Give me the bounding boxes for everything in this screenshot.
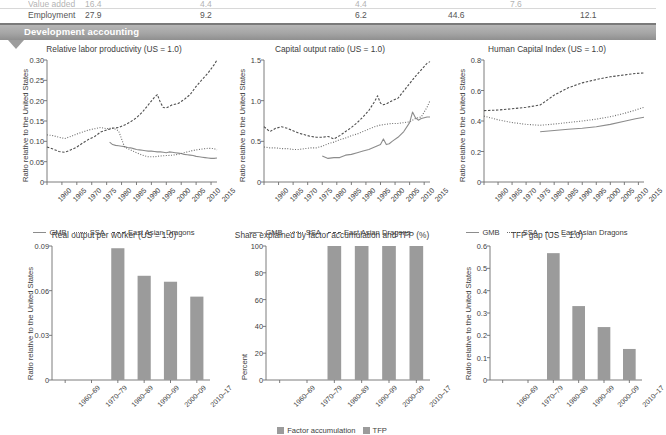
bar	[598, 327, 611, 380]
y-tick-label: 0.15	[30, 117, 44, 126]
table-row: Employment 27.9 9.2 6.2 44.6 12.1	[0, 10, 656, 22]
y-tick-label: 1.5	[251, 56, 261, 65]
x-tick-label: 2010–17	[641, 384, 665, 408]
y-tick-label: 0.4	[477, 286, 487, 295]
plot-svg	[484, 60, 644, 182]
x-tick-label: 1960	[273, 186, 291, 204]
plot-area: 00.030.060.091960–691970–791980–891990–9…	[52, 246, 210, 380]
chart-title: Real output per worker (US = 1.0)	[6, 230, 222, 240]
x-tick-label: 1990	[360, 186, 378, 204]
chart-panel-share-explained-factor-tfp: Share explained by factor accumulation a…	[224, 230, 440, 426]
bar	[382, 246, 396, 380]
chart-panel-tfp-gap: TFP gap (US = 1.0)Ratio relative to the …	[442, 230, 652, 426]
y-tick-label: 0.6	[471, 86, 481, 95]
y-tick-label: 60	[255, 295, 263, 304]
x-tick-label: 1995	[160, 186, 178, 204]
x-tick-label: 1990–99	[591, 384, 615, 408]
y-tick-label: 0.3	[477, 309, 487, 318]
y-tick-label: 0.20	[30, 96, 44, 105]
section-banner: Development accounting	[0, 25, 656, 40]
table-cell-label: Employment	[28, 10, 75, 20]
legend-label: Factor accumulation	[287, 426, 355, 435]
y-tick-label: 0.5	[477, 264, 487, 273]
x-tick-label: 1975	[100, 186, 118, 204]
series-line-gmb	[322, 112, 430, 158]
y-tick-label: 0	[477, 178, 481, 187]
plot-area: 00.20.40.60.8196019651970197519801985199…	[484, 60, 644, 182]
y-tick-label: 1.0	[251, 96, 261, 105]
y-tick-label: 0.09	[35, 242, 49, 251]
x-tick-label: 1980–89	[565, 384, 589, 408]
y-tick-label: 0.03	[35, 331, 49, 340]
chart-title: TFP gap (US = 1.0)	[442, 230, 652, 240]
chart-title: Human Capital Index (US = 1.0)	[442, 44, 652, 54]
plot-svg	[490, 246, 642, 380]
chart-panel-real-output-per-worker: Real output per worker (US = 1.0)Ratio r…	[6, 230, 222, 426]
table-cell-value: 12.1	[580, 10, 597, 20]
y-tick-label: 0.8	[471, 56, 481, 65]
x-tick-label: 2000–09	[401, 384, 425, 408]
x-tick-label: 1980	[331, 186, 349, 204]
x-tick-label: 1980–89	[130, 384, 154, 408]
y-tick-label: 0.4	[471, 117, 481, 126]
y-tick-label: 0.10	[30, 137, 44, 146]
bar	[138, 276, 151, 380]
legend-item[interactable]: TFP	[363, 426, 387, 435]
x-tick-label: 2000–09	[616, 384, 640, 408]
y-tick-label: 20	[255, 349, 263, 358]
x-tick-label: 1970–79	[540, 384, 564, 408]
section-banner-title: Development accounting	[24, 26, 139, 37]
x-tick-label: 1980–89	[346, 384, 370, 408]
y-tick-label: 0.2	[477, 331, 487, 340]
bar	[164, 282, 177, 380]
plot-area: 00.10.20.30.40.50.61960–691970–791980–89…	[490, 246, 642, 380]
y-tick-label: 0.06	[35, 286, 49, 295]
x-tick-label: 1970–79	[103, 384, 127, 408]
bar	[572, 306, 585, 380]
chart-legend: Factor accumulationTFP	[224, 426, 440, 435]
plot-area: 0204060801001960–691970–791980–891990–99…	[266, 246, 430, 380]
x-tick-label: 1980	[115, 186, 133, 204]
table-cell-value: 6.2	[355, 10, 367, 20]
bar	[190, 297, 203, 380]
legend-item[interactable]: Factor accumulation	[277, 426, 355, 435]
table-divider	[0, 8, 656, 9]
bar	[355, 246, 369, 380]
x-tick-label: 1970–79	[319, 384, 343, 408]
bar	[623, 349, 636, 380]
y-tick-label: 40	[255, 322, 263, 331]
plot-svg	[266, 246, 430, 380]
bar	[410, 246, 424, 380]
bar	[328, 246, 342, 380]
x-tick-label: 1990–99	[374, 384, 398, 408]
chart-title: Relative labor productivity (US = 1.0)	[6, 44, 222, 54]
table-cell-value: 27.9	[85, 10, 102, 20]
x-tick-label: 1970	[85, 186, 103, 204]
chart-title: Capital output ratio (US = 1.0)	[224, 44, 436, 54]
series-line-ssa	[47, 128, 217, 157]
y-tick-label: 0.30	[30, 56, 44, 65]
x-tick-label: 2010	[205, 186, 223, 204]
bar	[547, 253, 560, 380]
x-tick-label: 1960	[56, 186, 74, 204]
bar	[111, 248, 124, 380]
series-line-east-asian-dragons	[264, 62, 430, 139]
x-tick-label: 2005	[190, 186, 208, 204]
legend-label: TFP	[373, 426, 387, 435]
y-tick-label: 0	[45, 376, 49, 385]
x-tick-label: 2000–09	[182, 384, 206, 408]
chart-panel-relative-labor-productivity: Relative labor productivity (US = 1.0)Ra…	[6, 44, 222, 220]
plot-svg	[52, 246, 210, 380]
legend-color-swatch	[277, 427, 284, 434]
x-tick-label: 1965	[71, 186, 89, 204]
x-tick-label: 1960–69	[292, 384, 316, 408]
chart-title: Share explained by factor accumulation a…	[224, 230, 440, 240]
table-cell-value: 44.6	[448, 10, 465, 20]
plot-area: 00.51.01.5196019651970197519801985199019…	[264, 60, 430, 182]
plot-svg	[264, 60, 430, 182]
x-tick-label: 1990	[145, 186, 163, 204]
x-tick-label: 1990–99	[156, 384, 180, 408]
plot-area: 00.050.100.150.200.250.30196019651970197…	[47, 60, 217, 182]
table-cell-value: 9.2	[200, 10, 212, 20]
x-tick-label: 2000	[175, 186, 193, 204]
